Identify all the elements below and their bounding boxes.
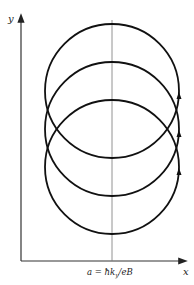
center-line-label: a = ħky/eB bbox=[87, 267, 133, 279]
orbits-group bbox=[45, 24, 182, 234]
x-axis-label: x bbox=[183, 266, 189, 277]
direction-arrow-icon bbox=[177, 92, 182, 99]
direction-arrow-icon bbox=[177, 168, 182, 175]
y-axis-label: y bbox=[7, 13, 14, 24]
cyclotron-orbit-diagram: y x a = ħky/eB bbox=[0, 0, 194, 285]
direction-arrow-icon bbox=[177, 130, 182, 137]
